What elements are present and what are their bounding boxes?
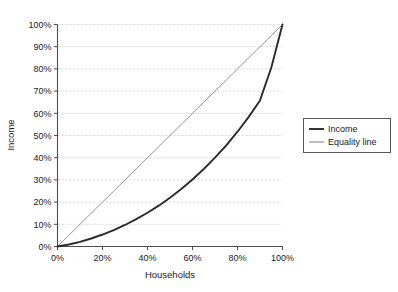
y-axis-title: Income: [5, 119, 16, 150]
chart-canvas: 0%10%20%30%40%50%60%70%80%90%100% 0%20%4…: [0, 0, 398, 292]
x-axis-tick-label: 100%: [271, 253, 294, 263]
y-axis-tick-label: 60%: [33, 109, 51, 119]
x-axis-tick-label: 0%: [51, 253, 64, 263]
x-axis-tick-label: 80%: [228, 253, 246, 263]
y-axis-tick-label: 90%: [33, 42, 51, 52]
legend-label-income: Income: [328, 124, 358, 134]
lorenz-curve-chart: 0%10%20%30%40%50%60%70%80%90%100% 0%20%4…: [0, 0, 398, 292]
y-axis-tick-label: 30%: [33, 175, 51, 185]
x-axis-tick-label: 40%: [138, 253, 156, 263]
y-axis-tick-label: 40%: [33, 153, 51, 163]
y-axis-tick-label: 70%: [33, 86, 51, 96]
y-axis-tick-label: 50%: [33, 131, 51, 141]
y-axis-tick-label: 80%: [33, 64, 51, 74]
x-axis-title: Households: [145, 269, 195, 280]
y-axis-tick-label: 20%: [33, 197, 51, 207]
y-axis-tick-label: 10%: [33, 220, 51, 230]
x-axis-tick-label: 60%: [183, 253, 201, 263]
legend-label-equality-line: Equality line: [328, 137, 377, 147]
x-axis-tick-label: 20%: [93, 253, 111, 263]
chart-legend: Income Equality line: [304, 119, 391, 153]
y-axis-tick-label: 0%: [38, 242, 51, 252]
y-axis-tick-label: 100%: [28, 20, 51, 30]
